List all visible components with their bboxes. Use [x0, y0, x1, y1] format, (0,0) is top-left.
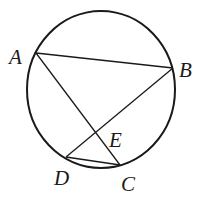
label-a: A [7, 45, 22, 69]
circle [27, 11, 175, 168]
segment-ab [36, 53, 173, 68]
label-b: B [179, 58, 192, 82]
label-d: D [53, 166, 69, 190]
label-c: C [121, 172, 136, 196]
label-e: E [108, 128, 122, 152]
geometry-diagram: A B E D C [0, 0, 201, 200]
segment-dc [66, 157, 120, 165]
segment-ac [36, 53, 120, 165]
